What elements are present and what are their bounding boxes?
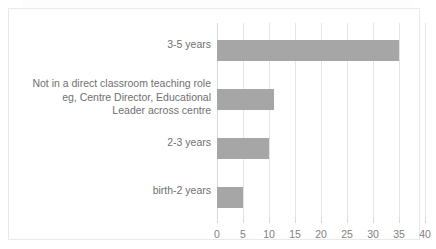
xtick-label-40: 40 xyxy=(410,228,436,241)
tickmark-20 xyxy=(321,218,322,223)
tickmark-15 xyxy=(295,218,296,223)
tickmark-5 xyxy=(243,218,244,223)
tickmark-25 xyxy=(347,218,348,223)
category-label-2-3-years: 2-3 years xyxy=(27,136,217,150)
top-edge-artifact xyxy=(22,0,412,7)
category-label-not-in-direct-classroom-role: Not in a direct classroom teaching role … xyxy=(27,77,217,118)
chart-frame-border: 3-5 years Not in a direct classroom teac… xyxy=(8,8,420,240)
bar-not-in-direct-classroom-role[interactable] xyxy=(217,89,274,110)
gridline-40 xyxy=(425,23,426,218)
tickmark-35 xyxy=(399,218,400,223)
tickmark-0 xyxy=(217,218,218,223)
plot-area: 0 5 10 15 20 25 30 35 40 xyxy=(217,23,425,218)
gridline-35 xyxy=(399,23,400,218)
category-label-3-5-years: 3-5 years xyxy=(27,38,217,52)
bar-2-3-years[interactable] xyxy=(217,138,269,159)
tickmark-10 xyxy=(269,218,270,223)
tickmark-40 xyxy=(425,218,426,223)
tickmark-30 xyxy=(373,218,374,223)
category-axis-labels: 3-5 years Not in a direct classroom teac… xyxy=(17,23,217,218)
category-label-birth-2-years: birth-2 years xyxy=(27,184,217,198)
bar-birth-2-years[interactable] xyxy=(217,187,243,208)
bar-3-5-years[interactable] xyxy=(217,40,399,61)
